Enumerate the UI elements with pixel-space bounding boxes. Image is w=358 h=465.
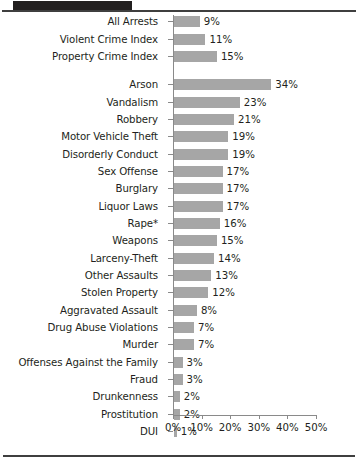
bar-value-label: 12% xyxy=(212,287,235,298)
x-axis-tick xyxy=(173,415,174,419)
bar xyxy=(174,114,234,125)
header-rule xyxy=(2,10,356,12)
bar-value-label: 34% xyxy=(275,79,298,90)
bar-value-label: 19% xyxy=(232,149,255,160)
x-axis-tick-label: 20% xyxy=(219,422,242,433)
y-axis-tick xyxy=(168,39,173,40)
bar-category-label: Aggravated Assault xyxy=(0,305,158,316)
bar-category-label: Other Assaults xyxy=(0,270,158,281)
plot-area: All Arrests9%Violent Crime Index11%Prope… xyxy=(0,13,358,413)
x-axis-tick xyxy=(287,415,288,419)
y-axis-tick xyxy=(168,136,173,137)
bar-row: Property Crime Index15% xyxy=(0,48,358,65)
bar-row: Larceny-Theft14% xyxy=(0,249,358,266)
bar-value-label: 11% xyxy=(209,34,232,45)
bar-category-label: Larceny-Theft xyxy=(0,253,158,264)
bar-category-label: Rape* xyxy=(0,218,158,229)
bar-value-label: 13% xyxy=(215,270,238,281)
y-axis-tick xyxy=(168,396,173,397)
bar-row: Stolen Property12% xyxy=(0,284,358,301)
bar-value-label: 3% xyxy=(187,357,203,368)
bar xyxy=(174,322,194,333)
y-axis-tick xyxy=(168,171,173,172)
x-axis-tick-label: 40% xyxy=(276,422,299,433)
y-axis-tick xyxy=(168,56,173,57)
bar xyxy=(174,287,208,298)
y-axis-tick xyxy=(168,154,173,155)
bar-row: Other Assaults13% xyxy=(0,267,358,284)
bar xyxy=(174,253,214,264)
bar-row: Aggravated Assault8% xyxy=(0,302,358,319)
bar xyxy=(174,166,223,177)
bar-row: Murder7% xyxy=(0,336,358,353)
bar-value-label: 17% xyxy=(227,201,250,212)
y-axis-tick xyxy=(168,188,173,189)
bar-value-label: 15% xyxy=(221,235,244,246)
bar xyxy=(174,51,217,62)
bar-row: Vandalism23% xyxy=(0,93,358,110)
bar-chart: All Arrests9%Violent Crime Index11%Prope… xyxy=(0,13,358,453)
bar-value-label: 7% xyxy=(198,322,214,333)
bar-value-label: 9% xyxy=(204,16,220,27)
bar xyxy=(174,339,194,350)
bar-row: Motor Vehicle Theft19% xyxy=(0,128,358,145)
bar-value-label: 23% xyxy=(244,97,267,108)
bar xyxy=(174,34,205,45)
x-axis-tick xyxy=(259,415,260,419)
bar-category-label: Arson xyxy=(0,79,158,90)
bar-value-label: 15% xyxy=(221,51,244,62)
bar-row: Arson34% xyxy=(0,76,358,93)
bar xyxy=(174,201,223,212)
bar xyxy=(174,79,271,90)
y-axis-tick xyxy=(168,258,173,259)
bar-value-label: 21% xyxy=(238,114,261,125)
y-axis-tick xyxy=(168,21,173,22)
bar-category-label: Murder xyxy=(0,339,158,350)
bar xyxy=(174,305,197,316)
bar-value-label: 17% xyxy=(227,183,250,194)
bar xyxy=(174,97,240,108)
y-axis-tick xyxy=(168,240,173,241)
bar-row: Drunkenness2% xyxy=(0,388,358,405)
bar-value-label: 14% xyxy=(218,253,241,264)
bar-row: Sex Offense17% xyxy=(0,163,358,180)
bar-category-label: Liquor Laws xyxy=(0,201,158,212)
y-axis-tick xyxy=(168,292,173,293)
header-black-bar xyxy=(13,1,132,10)
bar-category-label: Fraud xyxy=(0,374,158,385)
bar-category-label: Vandalism xyxy=(0,97,158,108)
bar xyxy=(174,16,200,27)
footer-rule xyxy=(3,455,355,457)
bar-value-label: 8% xyxy=(201,305,217,316)
bar-row: Disorderly Conduct19% xyxy=(0,145,358,162)
bar-category-label: Violent Crime Index xyxy=(0,34,158,45)
bar-category-label: Drug Abuse Violations xyxy=(0,322,158,333)
y-axis-tick xyxy=(168,362,173,363)
bar xyxy=(174,183,223,194)
row-spacer xyxy=(0,65,358,76)
bar-row: Weapons15% xyxy=(0,232,358,249)
y-axis-tick xyxy=(168,119,173,120)
bar-category-label: Weapons xyxy=(0,235,158,246)
bar-category-label: Stolen Property xyxy=(0,287,158,298)
y-axis-tick xyxy=(168,327,173,328)
bar-row: Liquor Laws17% xyxy=(0,197,358,214)
bar-row: Offenses Against the Family3% xyxy=(0,354,358,371)
bar-category-label: All Arrests xyxy=(0,16,158,27)
bar xyxy=(174,218,220,229)
x-axis-tick xyxy=(316,415,317,419)
bar xyxy=(174,235,217,246)
bar-category-label: Disorderly Conduct xyxy=(0,149,158,160)
bar-row: Burglary17% xyxy=(0,180,358,197)
bar-category-label: Robbery xyxy=(0,114,158,125)
bar-row: Fraud3% xyxy=(0,371,358,388)
x-axis-tick xyxy=(230,415,231,419)
x-axis-tick xyxy=(202,415,203,419)
x-axis-line xyxy=(173,415,316,416)
bar xyxy=(174,149,228,160)
bar xyxy=(174,374,183,385)
bar xyxy=(174,391,180,402)
y-axis-tick xyxy=(168,223,173,224)
y-axis-tick xyxy=(168,310,173,311)
y-axis-tick xyxy=(168,84,173,85)
